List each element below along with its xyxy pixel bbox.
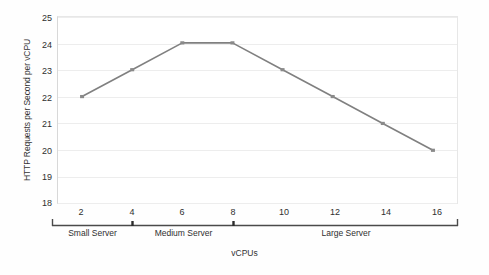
gridline-22 xyxy=(58,97,457,98)
x-tick-label-2: 2 xyxy=(66,207,96,217)
y-tick-label-20: 20 xyxy=(30,146,52,156)
x-tick-label-10: 10 xyxy=(269,207,299,217)
gridline-18 xyxy=(58,203,457,204)
group-label-large-server: Large Server xyxy=(234,228,458,238)
gridline-20 xyxy=(58,150,457,151)
y-tick-label-22: 22 xyxy=(30,93,52,103)
group-label-medium-server: Medium Server xyxy=(133,228,234,238)
x-tick-label-14: 14 xyxy=(371,207,401,217)
y-tick-label-24: 24 xyxy=(30,40,52,50)
group-label-small-server: Small Server xyxy=(52,228,133,238)
chart-container: HTTP Requests per Second per vCPU 25 24 … xyxy=(0,0,489,275)
x-tick-label-8: 8 xyxy=(218,207,248,217)
x-tick-label-4: 4 xyxy=(117,207,147,217)
x-tick-label-16: 16 xyxy=(422,207,452,217)
y-tick-label-25: 25 xyxy=(30,13,52,23)
gridline-24 xyxy=(58,44,457,45)
y-tick-label-19: 19 xyxy=(30,172,52,182)
plot-area xyxy=(57,16,458,204)
gridline-25 xyxy=(58,17,457,18)
x-tick-label-6: 6 xyxy=(167,207,197,217)
y-tick-label-23: 23 xyxy=(30,66,52,76)
x-axis-title: vCPUs xyxy=(0,248,489,258)
gridline-21 xyxy=(58,123,457,124)
gridline-23 xyxy=(58,70,457,71)
x-tick-label-12: 12 xyxy=(320,207,350,217)
gridline-19 xyxy=(58,177,457,178)
y-tick-label-18: 18 xyxy=(30,198,52,208)
y-axis-title: HTTP Requests per Second per vCPU xyxy=(22,25,32,195)
y-tick-label-21: 21 xyxy=(30,119,52,129)
